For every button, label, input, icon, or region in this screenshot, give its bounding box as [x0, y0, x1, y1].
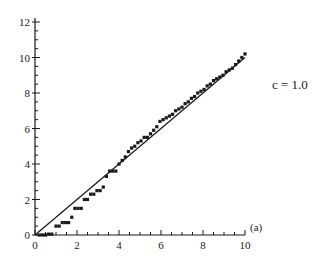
data-point: [146, 136, 149, 139]
data-point: [190, 97, 193, 100]
data-point: [124, 155, 127, 158]
data-point: [80, 207, 83, 210]
data-point: [105, 175, 108, 178]
data-point: [171, 113, 174, 116]
data-point: [209, 83, 212, 86]
data-point: [143, 136, 146, 139]
data-point: [41, 233, 44, 236]
x-tick-label: 0: [32, 239, 38, 251]
x-tick-label: 4: [116, 239, 122, 251]
data-point: [202, 88, 205, 91]
data-point: [83, 198, 86, 201]
data-point: [225, 70, 228, 73]
data-point: [54, 225, 57, 228]
data-point: [95, 189, 98, 192]
reference-line: [35, 58, 245, 236]
data-point: [76, 207, 79, 210]
data-point: [136, 141, 139, 144]
y-tick-label: 4: [25, 158, 31, 170]
data-point: [158, 120, 161, 123]
data-point: [130, 146, 133, 149]
data-point: [70, 216, 73, 219]
data-point: [155, 125, 158, 128]
data-point: [50, 233, 53, 236]
data-point: [67, 221, 70, 224]
data-point: [174, 109, 177, 112]
data-point: [111, 170, 114, 173]
data-point: [206, 84, 209, 87]
data-point: [218, 75, 221, 78]
parameter-annotation: c = 1.0: [272, 77, 308, 92]
data-point: [231, 67, 234, 70]
data-point: [121, 159, 124, 162]
y-tick-label: 0: [25, 229, 31, 241]
axis-ticks: [32, 22, 245, 235]
data-point: [228, 68, 231, 71]
data-point: [215, 77, 218, 80]
data-point: [108, 170, 111, 173]
data-point: [196, 91, 199, 94]
data-point: [184, 102, 187, 105]
y-tick-label: 6: [25, 123, 31, 135]
data-point: [64, 221, 67, 224]
y-tick-label: 10: [19, 52, 31, 64]
data-point: [73, 207, 76, 210]
data-point: [243, 52, 246, 55]
data-point: [133, 145, 136, 148]
x-tick-label: 6: [158, 239, 164, 251]
tick-labels: 0246810024681012: [19, 16, 251, 251]
x-tick-label: 2: [74, 239, 80, 251]
data-point: [117, 162, 120, 165]
data-point: [89, 193, 92, 196]
x-tick-label: 10: [240, 239, 252, 251]
data-point: [180, 106, 183, 109]
data-point: [114, 170, 117, 173]
scatter-chart: 0246810024681012 c = 1.0 (a): [0, 0, 328, 269]
data-point: [193, 95, 196, 98]
axes: [35, 18, 245, 235]
data-point: [199, 90, 202, 93]
data-point: [162, 118, 165, 121]
data-point: [92, 193, 95, 196]
data-point: [127, 150, 130, 153]
data-point: [240, 56, 243, 59]
data-point: [212, 79, 215, 82]
data-point: [99, 189, 102, 192]
data-point: [237, 59, 240, 62]
data-point: [58, 225, 61, 228]
data-point: [139, 139, 142, 142]
y-tick-label: 8: [25, 87, 31, 99]
panel-label: (a): [250, 221, 263, 234]
data-point: [165, 116, 168, 119]
data-point: [44, 233, 47, 236]
data-point: [86, 198, 89, 201]
data-point: [47, 233, 50, 236]
data-point: [234, 63, 237, 66]
data-point: [177, 107, 180, 110]
data-point: [168, 114, 171, 117]
x-tick-label: 8: [200, 239, 206, 251]
reference-line-path: [35, 58, 245, 236]
data-point: [221, 74, 224, 77]
data-point: [152, 129, 155, 132]
data-point: [149, 132, 152, 135]
y-tick-label: 12: [19, 16, 30, 28]
data-point: [38, 233, 41, 236]
data-point: [102, 185, 105, 188]
data-point: [187, 100, 190, 103]
y-tick-label: 2: [25, 194, 31, 206]
data-point: [61, 221, 64, 224]
